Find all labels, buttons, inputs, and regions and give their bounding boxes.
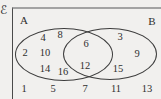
venn-number-outside: 13 xyxy=(142,84,153,95)
set-b-label: B xyxy=(148,15,155,27)
venn-number-a-only: 8 xyxy=(57,30,62,41)
venn-number-a-only: 10 xyxy=(40,48,51,59)
venn-number-a-only: 14 xyxy=(40,64,51,75)
venn-number-b-only: 15 xyxy=(113,64,124,75)
venn-number-outside: 7 xyxy=(82,84,87,95)
venn-number-a-only: 4 xyxy=(40,33,45,44)
universal-set-symbol: ℰ xyxy=(0,3,7,17)
venn-diagram: ℰ A B 48210141661239151571113 xyxy=(0,0,161,99)
venn-number-a-only: 16 xyxy=(58,67,69,78)
venn-number-a-only: 2 xyxy=(22,48,27,59)
venn-number-b-only: 3 xyxy=(117,32,122,43)
set-b-ellipse xyxy=(63,28,157,80)
venn-number-outside: 1 xyxy=(21,84,26,95)
venn-number-intersection: 6 xyxy=(83,39,88,50)
venn-number-intersection: 12 xyxy=(80,61,91,72)
set-a-label: A xyxy=(20,14,28,26)
venn-number-outside: 5 xyxy=(50,84,55,95)
venn-number-b-only: 9 xyxy=(134,49,139,60)
venn-number-outside: 11 xyxy=(111,84,121,95)
